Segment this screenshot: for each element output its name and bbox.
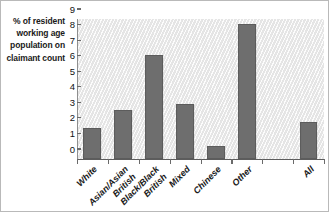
y-axis-tick-label: 5 <box>70 66 77 77</box>
y-axis-caption-line-1: % of resident <box>3 15 65 27</box>
bar-slot <box>108 19 139 159</box>
y-axis-tick: 2 <box>70 113 77 123</box>
y-axis-tick-label: 2 <box>70 112 77 123</box>
bar[interactable] <box>238 24 256 159</box>
y-axis-tick: 6 <box>70 51 77 61</box>
bar-slot <box>201 19 232 159</box>
y-axis-tick-label: 9 <box>70 4 77 15</box>
y-axis-caption-line-2: working age <box>3 27 65 39</box>
y-axis-tick: 1 <box>70 128 77 138</box>
bar[interactable] <box>176 104 194 159</box>
bar-slot <box>262 19 293 159</box>
bar[interactable] <box>145 55 163 159</box>
bar[interactable] <box>114 110 132 159</box>
bar-chart-figure: % of resident working age population on … <box>0 0 329 212</box>
bar-slot <box>170 19 201 159</box>
y-axis-tick-label: 4 <box>70 81 77 92</box>
y-axis-caption-line-4: claimant count <box>3 52 65 64</box>
y-axis-tick: 7 <box>70 35 77 45</box>
bar-slot <box>293 19 324 159</box>
y-axis-tick-label: 8 <box>70 19 77 30</box>
y-axis-tick: 0 <box>70 144 77 154</box>
plot-wrapper: 0123456789 <box>77 19 324 159</box>
y-axis-tick: 4 <box>70 82 77 92</box>
y-axis-caption: % of resident working age population on … <box>3 15 65 64</box>
bar-slot <box>77 19 108 159</box>
y-axis-tick: 5 <box>70 66 77 76</box>
y-axis-tick-label: 7 <box>70 35 77 46</box>
bar-series <box>77 19 324 159</box>
y-axis-tick: 9 <box>70 4 77 14</box>
bar[interactable] <box>207 146 225 159</box>
y-axis-tick: 3 <box>70 97 77 107</box>
bar[interactable] <box>83 128 101 159</box>
x-axis-labels: WhiteAsian/AsianBritishBlack/BlackBritis… <box>77 164 324 212</box>
bar[interactable] <box>300 122 318 159</box>
y-axis-tick-label: 1 <box>70 128 77 139</box>
y-axis-tick-label: 6 <box>70 50 77 61</box>
y-axis-tick-label: 3 <box>70 97 77 108</box>
x-axis-tick-mark <box>324 159 325 164</box>
bar-slot <box>139 19 170 159</box>
y-axis-tick-mark <box>77 8 81 9</box>
y-axis-caption-line-3: population on <box>3 39 65 51</box>
y-axis-tick-label: 0 <box>70 144 77 155</box>
bar-slot <box>231 19 262 159</box>
y-axis-tick: 8 <box>70 20 77 30</box>
